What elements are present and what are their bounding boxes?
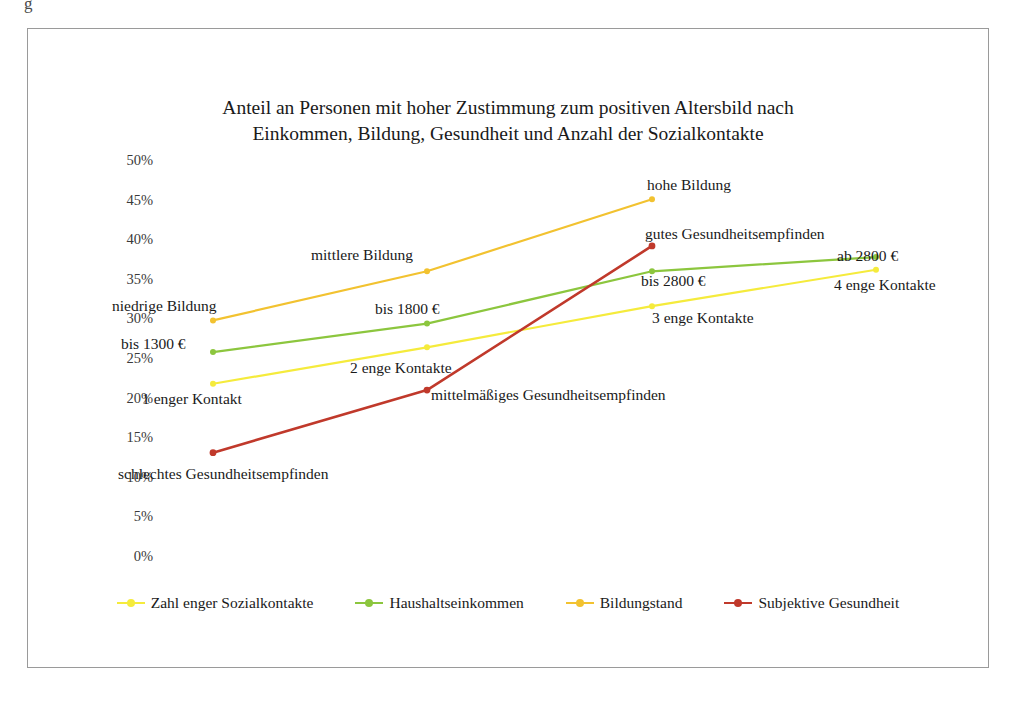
data-point-marker (649, 243, 656, 250)
annotation-label: mittlere Bildung (311, 246, 413, 264)
legend-swatch-icon (566, 597, 594, 609)
data-point-marker (210, 349, 216, 355)
legend-item-2[interactable]: Bildungstand (566, 594, 683, 612)
annotation-label: bis 2800 € (641, 272, 706, 290)
annotation-label: mittelmäßiges Gesundheitsempfinden (431, 386, 666, 404)
legend-swatch-icon (724, 597, 752, 609)
series-line-3 (213, 246, 652, 453)
data-point-marker (424, 268, 430, 274)
annotation-label: 4 enge Kontakte (834, 276, 936, 294)
annotation-label: ab 2800 € (837, 247, 898, 265)
data-point-marker (873, 267, 879, 273)
legend-swatch-icon (355, 597, 383, 609)
annotation-label: hohe Bildung (647, 176, 731, 194)
annotation-label: bis 1800 € (375, 300, 440, 318)
data-point-marker (210, 381, 216, 387)
legend-item-0[interactable]: Zahl enger Sozialkontakte (117, 594, 314, 612)
annotation-label: niedrige Bildung (112, 297, 217, 315)
data-point-marker (210, 449, 217, 456)
page-top-text-fragment: g (24, 0, 33, 14)
series-line-0 (213, 270, 876, 384)
annotation-label: 2 enge Kontakte (350, 359, 452, 377)
data-point-marker (424, 321, 430, 327)
data-point-marker (424, 387, 431, 394)
annotation-label: gutes Gesundheitsempfinden (645, 225, 825, 243)
legend-label: Subjektive Gesundheit (758, 594, 899, 612)
annotation-label: bis 1300 € (121, 335, 186, 353)
legend-label: Bildungstand (600, 594, 683, 612)
annotation-label: 3 enge Kontakte (652, 309, 754, 327)
data-point-marker (210, 317, 216, 323)
data-point-marker (424, 344, 430, 350)
legend-label: Zahl enger Sozialkontakte (151, 594, 314, 612)
series-line-1 (213, 257, 876, 352)
legend-swatch-icon (117, 597, 145, 609)
annotation-label: schlechtes Gesundheitsempfinden (118, 465, 328, 483)
legend-label: Haushaltseinkommen (389, 594, 523, 612)
legend-item-1[interactable]: Haushaltseinkommen (355, 594, 523, 612)
chart-legend: Zahl enger SozialkontakteHaushaltseinkom… (28, 594, 988, 612)
legend-item-3[interactable]: Subjektive Gesundheit (724, 594, 899, 612)
annotation-label: 1 enger Kontakt (142, 390, 242, 408)
data-point-marker (649, 196, 655, 202)
chart-frame: Anteil an Personen mit hoher Zustimmung … (27, 28, 989, 668)
